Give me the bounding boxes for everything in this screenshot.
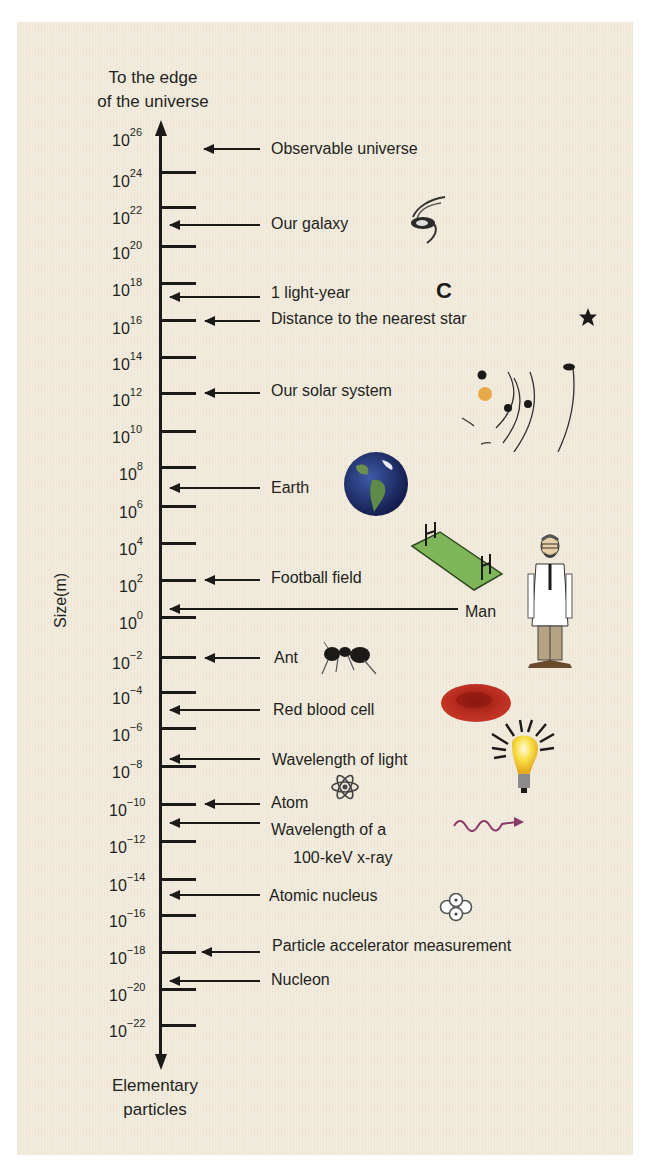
tick-label: 10−12 [109, 837, 145, 857]
label-atomic-nucleus: Atomic nucleus [269, 887, 378, 905]
axis-tick [161, 727, 196, 730]
axis-tick [161, 319, 196, 322]
tick-label: 1016 [112, 318, 142, 338]
tick-label: 10−4 [112, 688, 142, 708]
tick-label: 10−14 [109, 875, 145, 895]
tick-label: 1026 [112, 130, 142, 150]
tick-label: 100 [119, 613, 143, 633]
man-icon [522, 534, 584, 674]
top-label-line-1: To the edge [53, 66, 253, 90]
label-particle-accelerator: Particle accelerator measurement [272, 937, 511, 955]
tick-label: 1018 [112, 280, 142, 300]
tick-label: 106 [119, 502, 143, 522]
axis-tick [161, 356, 196, 359]
arrow-accelerator [202, 951, 260, 953]
tick-label: 1012 [112, 390, 142, 410]
label-red-blood-cell: Red blood cell [273, 701, 374, 719]
axis-tick [161, 206, 196, 209]
tick-label: 1022 [112, 208, 142, 228]
top-label-line-2: of the universe [53, 90, 253, 114]
axis-tick [161, 1024, 196, 1027]
tick-label: 1010 [112, 427, 142, 447]
arrow-galaxy [170, 224, 260, 226]
bottom-label-line-1: Elementary [55, 1074, 255, 1098]
arrow-red-blood-cell [170, 709, 260, 711]
size-axis [159, 130, 162, 1060]
axis-tick [161, 542, 196, 545]
atom-icon [330, 770, 360, 804]
axis-tick [161, 765, 196, 768]
galaxy-icon [405, 193, 450, 248]
top-label: To the edge of the universe [53, 66, 253, 114]
star-icon [578, 307, 598, 327]
moon-crescent-icon: C [436, 278, 452, 304]
tick-label: 10−8 [112, 762, 142, 782]
axis-tick [161, 803, 196, 806]
label-solar-system: Our solar system [271, 382, 392, 400]
label-ant: Ant [274, 649, 298, 667]
arrow-lightyear [170, 296, 260, 298]
axis-tick [161, 392, 196, 395]
axis-tick [161, 579, 196, 582]
axis-arrow-down-icon [154, 1054, 168, 1070]
axis-tick [161, 840, 196, 843]
axis-tick [161, 878, 196, 881]
label-our-galaxy: Our galaxy [271, 215, 348, 233]
arrow-nucleus [170, 894, 260, 896]
tick-label: 10−16 [109, 911, 145, 931]
axis-tick [161, 691, 196, 694]
tick-label: 10−10 [109, 800, 145, 820]
label-man: Man [465, 603, 496, 621]
label-wavelength-light: Wavelength of light [272, 751, 407, 769]
axis-tick [161, 430, 196, 433]
tick-label: 1014 [112, 354, 142, 374]
label-light-year: 1 light-year [271, 284, 350, 302]
nucleus-icon [439, 893, 473, 923]
label-xray-line-1: Wavelength of a [271, 821, 386, 839]
wave-icon [452, 812, 524, 836]
axis-tick [161, 245, 196, 248]
tick-label: 108 [119, 464, 143, 484]
label-earth: Earth [271, 479, 309, 497]
label-observable-universe: Observable universe [271, 140, 418, 158]
arrow-solar-system [205, 392, 260, 394]
axis-title: Size(m) [52, 573, 70, 628]
axis-arrow-up-icon [154, 120, 168, 136]
tick-label: 1024 [112, 171, 142, 191]
label-football-field: Football field [271, 569, 362, 587]
arrow-earth [170, 487, 260, 489]
earth-icon [342, 450, 410, 518]
arrow-xray [170, 822, 260, 824]
tick-label: 102 [119, 576, 143, 596]
tick-label: 10−22 [109, 1021, 145, 1041]
arrow-ant [205, 657, 260, 659]
ant-icon [318, 640, 380, 678]
axis-tick [161, 914, 196, 917]
tick-label: 10−20 [109, 985, 145, 1005]
arrow-observable [204, 148, 260, 150]
axis-tick [161, 988, 196, 991]
light-bulb-icon [488, 718, 558, 800]
tick-label: 1020 [112, 243, 142, 263]
arrow-nucleon [170, 980, 260, 982]
tick-label: 10−6 [112, 725, 142, 745]
label-atom: Atom [271, 794, 308, 812]
arrow-nearest-star [205, 320, 260, 322]
arrow-light [170, 758, 260, 760]
axis-tick [161, 616, 196, 619]
arrow-atom [205, 803, 260, 805]
axis-tick [161, 171, 196, 174]
football-field-icon [410, 520, 505, 592]
bottom-label: Elementary particles [55, 1074, 255, 1122]
label-nearest-star: Distance to the nearest star [271, 310, 467, 328]
arrow-man [170, 608, 458, 610]
axis-tick [161, 951, 196, 954]
solar-system-icon [458, 360, 583, 452]
axis-tick [161, 466, 196, 469]
axis-tick [161, 505, 196, 508]
tick-label: 10−2 [112, 653, 142, 673]
axis-tick [161, 282, 196, 285]
label-xray-line-2: 100-keV x-ray [293, 849, 393, 867]
label-nucleon: Nucleon [271, 971, 330, 989]
bottom-label-line-2: particles [55, 1098, 255, 1122]
